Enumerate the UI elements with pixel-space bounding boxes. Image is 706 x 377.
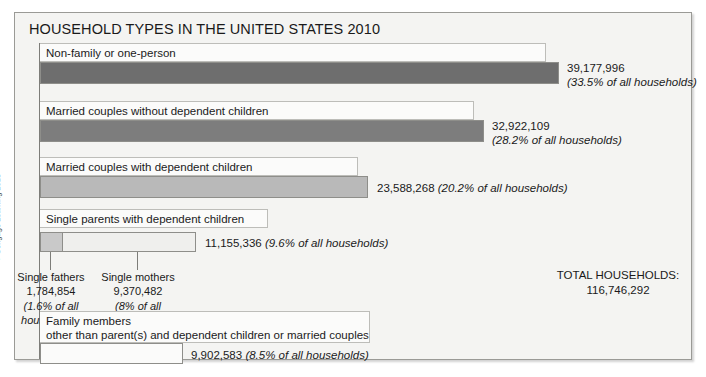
chart-title: HOUSEHOLD TYPES IN THE UNITED STATES 201… [29, 21, 380, 37]
sub-label-name: Single mothers [97, 270, 179, 284]
bar-label-non-family: Non-family or one-person [40, 43, 546, 62]
leader-line-single-fathers [50, 252, 51, 270]
bar-value-number: 39,177,996 [567, 61, 697, 75]
bar-value-percent: (9.6% of all households) [265, 237, 388, 249]
plot-area: Non-family or one-person 39,177,996 (33.… [39, 43, 681, 355]
bar-value-percent: (28.2% of all households) [492, 133, 622, 147]
bar-label-married-with-children: Married couples with dependent children [40, 157, 358, 176]
bar-label-line2: other than parent(s) and dependent child… [46, 329, 369, 341]
bar-segment-single-mothers[interactable] [63, 233, 195, 251]
bar-value-number: 9,902,583 [191, 349, 242, 361]
sub-label-name: Single fathers [12, 270, 90, 284]
bar-value-percent: (33.5% of all households) [567, 75, 697, 89]
bar-segment-single-fathers[interactable] [41, 233, 63, 251]
bar-value-number: 23,588,268 [377, 182, 435, 194]
bar-segment-primary [41, 344, 182, 363]
bar-value-percent: (20.2% of all households) [438, 182, 568, 194]
bar-value-single-parents: 11,155,336 (9.6% of all households) [205, 236, 388, 250]
bar-value-percent: (8.5% of all households) [245, 349, 368, 361]
bar-label-married-without-children: Married couples without dependent childr… [40, 101, 474, 120]
bar-label-other-family-members: Family members other than parent(s) and … [40, 311, 370, 343]
bar-value-number: 11,155,336 [205, 237, 262, 249]
bar-label-single-parents: Single parents with dependent children [40, 209, 268, 228]
bar-segment-primary [41, 177, 367, 197]
bar-segment-primary [41, 121, 483, 141]
sub-label-value: 1,784,854 [12, 284, 90, 298]
total-households-block: TOTAL HOUSEHOLDS: 116,746,292 [523, 268, 706, 298]
bar-segment-primary [41, 63, 558, 83]
bar-value-married-with-children: 23,588,268 (20.2% of all households) [377, 181, 568, 195]
total-households-label: TOTAL HOUSEHOLDS: [557, 269, 679, 281]
bar-value-other-family-members: 9,902,583 (8.5% of all households) [191, 348, 369, 362]
bar-married-with-children[interactable] [40, 176, 368, 198]
total-households-value: 116,746,292 [523, 283, 706, 298]
bar-married-without-children[interactable] [40, 120, 484, 142]
leader-line-single-mothers [137, 252, 138, 270]
bar-other-family-members[interactable] [40, 343, 183, 364]
figure-frame: HOUSEHOLD TYPES IN THE UNITED STATES 201… [14, 12, 692, 360]
bar-value-non-family: 39,177,996 (33.5% of all households) [567, 61, 697, 90]
bar-label-line1: Family members [46, 315, 131, 327]
bar-single-parents[interactable] [40, 232, 196, 252]
bar-non-family[interactable] [40, 62, 559, 84]
bar-value-married-without-children: 32,922,109 (28.2% of all households) [492, 119, 622, 148]
copyright-credit: © Cengage Learning 2013 [0, 174, 2, 262]
sub-label-value: 9,370,482 [97, 284, 179, 298]
bar-value-number: 32,922,109 [492, 119, 622, 133]
